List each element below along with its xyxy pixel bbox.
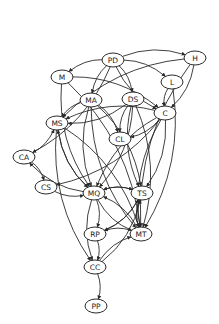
node-label: PD	[108, 56, 119, 65]
node-h: H	[184, 51, 206, 65]
node-ms: MS	[46, 116, 68, 130]
edge-rp-to-cc	[98, 241, 100, 260]
node-ma: MA	[80, 93, 102, 107]
edge-ma-to-mt	[91, 107, 136, 228]
node-ts: TS	[131, 186, 153, 200]
node-label: CA	[19, 153, 30, 162]
node-rp: RP	[84, 227, 106, 241]
edge-pd-to-m	[69, 60, 102, 72]
node-mt: MT	[130, 227, 152, 241]
node-cc: CC	[84, 260, 106, 274]
node-label: RP	[90, 230, 100, 239]
node-label: PP	[91, 302, 101, 311]
node-label: TS	[136, 189, 147, 198]
node-label: M	[59, 73, 65, 82]
node-cl: CL	[109, 132, 131, 146]
edge-ds-to-cl	[120, 105, 128, 132]
node-pp: PP	[85, 299, 107, 313]
node-label: H	[192, 54, 198, 63]
node-m: M	[51, 70, 73, 84]
node-ca: CA	[13, 150, 35, 164]
edge-ts-to-mq	[104, 187, 133, 190]
node-l: L	[161, 75, 183, 89]
edge-cc-to-mt	[99, 237, 131, 261]
edge-c-to-mt	[138, 120, 161, 228]
node-ds: DS	[122, 92, 144, 106]
directed-graph: PDHMLMADSCMSCLCACSMQTSRPMTCCPP	[0, 0, 219, 324]
node-label: CL	[115, 135, 125, 144]
edge-pd-to-ds	[119, 66, 132, 92]
node-label: MS	[51, 119, 62, 128]
node-label: C	[162, 109, 167, 118]
node-label: MQ	[88, 189, 100, 198]
edge-cc-to-pp	[98, 274, 101, 299]
node-cs: CS	[35, 180, 57, 194]
node-pd: PD	[102, 53, 124, 67]
node-mq: MQ	[83, 186, 105, 200]
node-label: MT	[135, 230, 146, 239]
node-c: C	[154, 106, 176, 120]
nodes-layer: PDHMLMADSCMSCLCACSMQTSRPMTCCPP	[13, 51, 206, 313]
node-label: DS	[128, 95, 139, 104]
node-label: MA	[85, 96, 97, 105]
edge-cs-to-mq	[55, 191, 84, 196]
node-label: CC	[90, 263, 100, 272]
edge-ds-to-ts	[127, 106, 139, 186]
edge-pd-to-h	[122, 50, 185, 57]
edge-mq-to-rp	[97, 200, 100, 227]
node-label: CS	[41, 183, 51, 192]
